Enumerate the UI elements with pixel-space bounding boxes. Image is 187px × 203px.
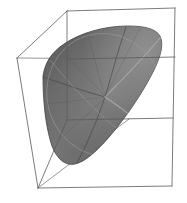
cube-edge-front-top — [67, 8, 175, 11]
figure-container: 3D surface plot in wireframe bounding bo… — [0, 0, 187, 203]
cube-edge-front-bottom — [38, 186, 172, 188]
surface-plot-canvas — [0, 0, 187, 203]
blob-focal-point — [104, 96, 106, 98]
isosurface-blob — [30, 18, 179, 175]
cube-edge-front-right — [172, 8, 175, 186]
cube-edge-left-vertical — [17, 58, 38, 188]
